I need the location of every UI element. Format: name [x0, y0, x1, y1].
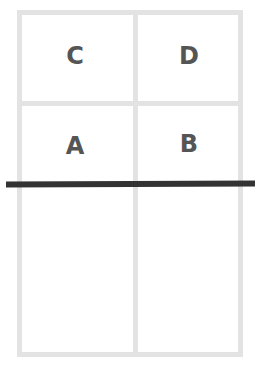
thick-horizontal-line: [6, 181, 255, 188]
cell-label-a: A: [22, 132, 128, 160]
cell-label-b: B: [136, 130, 242, 158]
cell-label-d: D: [136, 42, 242, 70]
cell-label-c: C: [22, 42, 128, 70]
horizontal-divider: [22, 101, 238, 106]
